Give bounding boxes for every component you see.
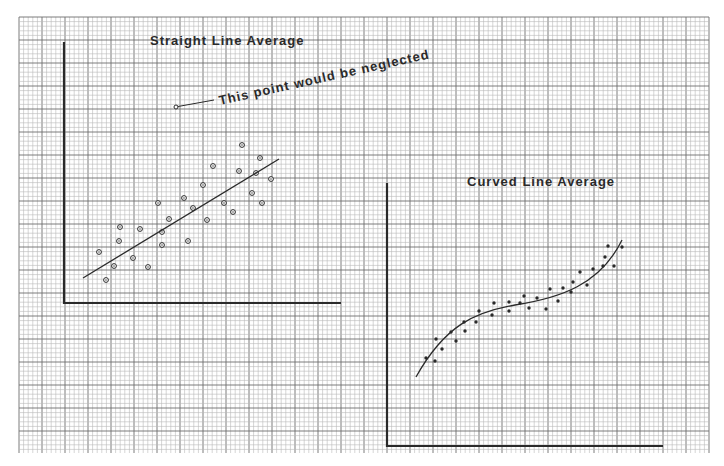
chart-title-curved: Curved Line Average <box>467 174 615 189</box>
data-point <box>522 294 525 297</box>
data-point <box>578 270 581 273</box>
fit-line <box>83 159 279 278</box>
data-point-center <box>161 231 162 232</box>
data-point <box>477 309 480 312</box>
data-point-center <box>132 257 133 258</box>
data-point <box>591 267 594 270</box>
data-point-center <box>270 178 271 179</box>
data-point <box>606 244 609 247</box>
data-point-center <box>232 211 233 212</box>
data-point <box>507 309 510 312</box>
data-point-center <box>147 266 148 267</box>
data-point-center <box>241 144 242 145</box>
data-point-center <box>157 202 158 203</box>
data-point <box>454 339 457 342</box>
leader-line <box>178 100 214 107</box>
data-point-center <box>161 244 162 245</box>
data-point-center <box>212 165 213 166</box>
data-point-center <box>183 197 184 198</box>
data-point <box>535 296 538 299</box>
straight-fit-line <box>83 159 279 278</box>
data-point-center <box>113 265 114 266</box>
data-point <box>556 299 559 302</box>
data-point <box>440 347 443 350</box>
outlier-point <box>174 105 178 109</box>
straight-line-chart: Straight Line Average This point would b… <box>64 33 431 303</box>
data-point-center <box>202 184 203 185</box>
graph-paper-figure: Straight Line Average This point would b… <box>0 0 724 466</box>
data-point-center <box>223 202 224 203</box>
data-point <box>474 320 477 323</box>
data-point-center <box>251 192 252 193</box>
data-point-center <box>206 219 207 220</box>
data-point <box>620 245 623 248</box>
data-point <box>548 287 551 290</box>
straight-chart-points <box>97 143 274 283</box>
data-point-center <box>139 228 140 229</box>
data-point <box>490 313 493 316</box>
graph-paper-grid <box>19 17 709 453</box>
chart-title-straight: Straight Line Average <box>150 33 304 48</box>
data-point-center <box>98 251 99 252</box>
data-point-center <box>118 240 119 241</box>
data-point-center <box>259 157 260 158</box>
data-point <box>463 329 466 332</box>
data-point-center <box>168 218 169 219</box>
data-point <box>571 280 574 283</box>
data-point-center <box>192 207 193 208</box>
data-point <box>433 359 436 362</box>
data-point <box>585 283 588 286</box>
data-point <box>603 255 606 258</box>
data-point <box>612 264 615 267</box>
data-point-center <box>261 202 262 203</box>
data-point-center <box>187 240 188 241</box>
data-point-center <box>105 279 106 280</box>
data-point <box>492 301 495 304</box>
data-point-center <box>119 226 120 227</box>
data-point-center <box>238 170 239 171</box>
data-point <box>434 337 437 340</box>
data-point <box>561 286 564 289</box>
data-point <box>507 300 510 303</box>
data-point <box>544 307 547 310</box>
data-point <box>527 306 530 309</box>
